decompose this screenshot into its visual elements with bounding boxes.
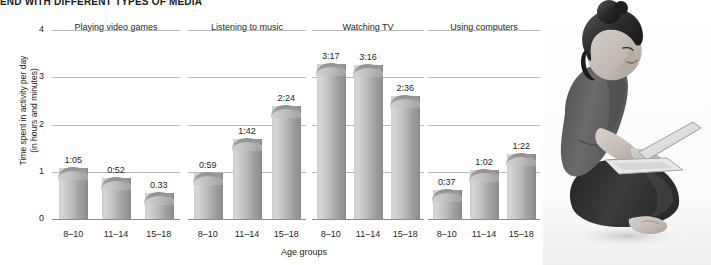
- bar-value-label: 1:22: [513, 141, 531, 151]
- bar: [507, 154, 536, 219]
- bar-value-label: 1:42: [238, 126, 256, 136]
- bar: [272, 106, 301, 219]
- x-tick-label: 11–14: [356, 229, 380, 239]
- gridline-2: [428, 125, 540, 126]
- y-tick-4: 4: [30, 24, 44, 34]
- bar-group: 0.33: [145, 193, 173, 219]
- x-axis-title: Age groups: [281, 247, 327, 257]
- bar-cap-inner: [193, 176, 223, 185]
- bar-cap-inner: [506, 157, 536, 166]
- bar: [233, 139, 262, 219]
- photo-woman-with-laptop: [543, 0, 711, 265]
- bar-cap: [232, 138, 262, 149]
- bar-cap-inner: [316, 67, 346, 76]
- x-tick-label: 8–10: [63, 229, 83, 239]
- gridline-0: [188, 219, 306, 220]
- y-tick-0: 0: [30, 213, 44, 223]
- bar-group: 3:17: [317, 64, 345, 219]
- bar-cap: [390, 95, 420, 106]
- x-tick-label: 15–18: [274, 229, 299, 239]
- y-tick-2: 2: [30, 119, 44, 129]
- gridline-0: [52, 219, 180, 220]
- gridline-3: [428, 77, 540, 78]
- bar-cap: [506, 153, 536, 164]
- bar: [391, 96, 420, 219]
- photo-illustration: [543, 0, 711, 265]
- bar: [470, 170, 499, 219]
- bar: [102, 178, 131, 219]
- gridline-3: [188, 77, 306, 78]
- bar-value-label: 3:17: [322, 51, 340, 61]
- x-tick-label: 11–14: [472, 229, 496, 239]
- bar-group: 0:59: [194, 173, 222, 219]
- bar-group: 0:37: [433, 190, 461, 219]
- bar-group: 1:42: [233, 139, 261, 219]
- x-tick-label: 15–18: [146, 229, 171, 239]
- bar-cap-inner: [58, 171, 88, 180]
- bar-group: 1:02: [470, 170, 498, 219]
- bar-group: 1:05: [59, 168, 87, 219]
- bar-cap: [101, 177, 131, 188]
- x-tick-label: 15–18: [393, 229, 418, 239]
- bar-value-label: 3:16: [359, 52, 377, 62]
- panel-1: Playing video games1:058–100:5211–140.33…: [52, 0, 180, 265]
- bar-value-label: 0:37: [438, 177, 456, 187]
- panel-2: Listening to music0:598–101:4211–142:241…: [188, 0, 306, 265]
- bar: [194, 173, 223, 219]
- bar-group: 2:24: [272, 106, 300, 219]
- y-tick-1: 1: [30, 166, 44, 176]
- bar-cap: [271, 105, 301, 116]
- panel-4: Using computers0:378–101:0211–141:2215–1…: [428, 0, 540, 265]
- bar-cap-inner: [232, 142, 262, 151]
- bar-cap: [353, 64, 383, 75]
- bar-value-label: 0:59: [199, 160, 217, 170]
- x-tick-label: 8–10: [321, 229, 341, 239]
- bar-value-label: 1:05: [65, 155, 83, 165]
- bar: [145, 193, 174, 219]
- bar-cap-inner: [390, 99, 420, 108]
- gridline-4: [52, 30, 180, 31]
- bar: [354, 65, 383, 219]
- gridline-0: [428, 219, 540, 220]
- gridline-4: [428, 30, 540, 31]
- bar-cap-inner: [353, 68, 383, 77]
- bar-group: 3:16: [354, 65, 382, 219]
- x-tick-label: 8–10: [198, 229, 218, 239]
- bar-value-label: 0:52: [107, 165, 125, 175]
- bar-cap: [193, 172, 223, 183]
- x-tick-label: 15–18: [509, 229, 534, 239]
- bar-value-label: 0.33: [150, 180, 168, 190]
- bar-cap: [316, 63, 346, 74]
- bar-group: 2:36: [391, 96, 419, 219]
- gridline-0: [312, 219, 424, 220]
- x-tick-label: 11–14: [235, 229, 259, 239]
- bar-cap: [144, 192, 174, 203]
- bar-value-label: 1:02: [475, 157, 493, 167]
- bar-cap-inner: [432, 193, 462, 202]
- bar-group: 1:22: [507, 154, 535, 219]
- y-axis-title: Time spent in activity per day (in hours…: [18, 36, 39, 186]
- bar: [317, 64, 346, 219]
- bar: [433, 190, 462, 219]
- gridline-3: [52, 77, 180, 78]
- gridline-4: [312, 30, 424, 31]
- bar-cap-inner: [469, 173, 499, 182]
- x-tick-label: 8–10: [437, 229, 457, 239]
- bar-value-label: 2:24: [278, 93, 296, 103]
- bar-cap: [469, 169, 499, 180]
- bar-group: 0:52: [102, 178, 130, 219]
- bar-value-label: 2:36: [397, 83, 415, 93]
- bar-cap-inner: [101, 181, 131, 190]
- gridline-4: [188, 30, 306, 31]
- gridline-2: [52, 125, 180, 126]
- x-tick-label: 11–14: [104, 229, 128, 239]
- y-tick-3: 3: [30, 71, 44, 81]
- bar-cap: [432, 189, 462, 200]
- bar: [59, 168, 88, 219]
- bar-cap-inner: [271, 109, 301, 118]
- bar-cap-inner: [144, 196, 174, 205]
- panel-3: Watching TV3:178–103:1611–142:3615–18: [312, 0, 424, 265]
- bar-cap: [58, 167, 88, 178]
